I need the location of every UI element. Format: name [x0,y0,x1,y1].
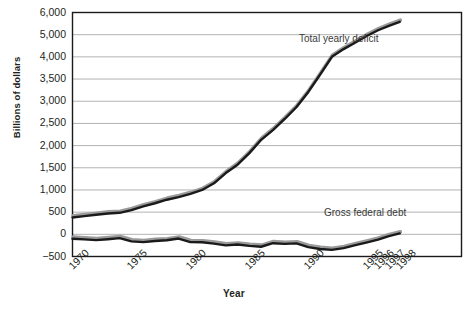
x-tick-label: 1990 [301,246,326,271]
series-annotation-total-yearly-deficit: Total yearly deficit [299,33,378,44]
series-annotation-gross-federal-debt: Gross federal debt [324,207,406,218]
x-tick-label: 1975 [124,246,149,271]
x-axis-tick-labels: 197019751980198519901995199619971998 [0,0,468,310]
x-tick-label: 1980 [183,246,208,271]
chart-container: Billions of dollars 6,0005,0004,0003,500… [0,0,468,310]
x-axis-title: Year [0,288,468,299]
x-tick-label: 1970 [66,246,91,271]
x-tick-label: 1985 [242,246,267,271]
